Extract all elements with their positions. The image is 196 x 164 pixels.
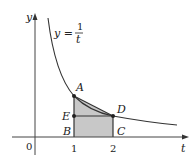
point-label-C: C: [117, 125, 126, 138]
tick-label-1: 1: [71, 143, 77, 154]
point-label-D: D: [116, 103, 126, 116]
diagram-canvas: y t 0 1 2 A E B D C y = 1 t: [0, 0, 196, 164]
point-E: [72, 114, 76, 118]
equation-lhs: y =: [53, 27, 73, 40]
equation-denominator: t: [76, 33, 81, 46]
equation-numerator: 1: [77, 21, 83, 32]
point-label-E: E: [61, 110, 70, 123]
equation-label: y = 1 t: [53, 21, 83, 46]
point-A: [72, 94, 76, 98]
y-axis-label: y: [25, 11, 33, 24]
t-axis-label: t: [181, 142, 186, 155]
y-axis-arrow-icon: [33, 13, 38, 20]
point-label-B: B: [62, 125, 71, 138]
point-label-A: A: [75, 81, 84, 94]
t-axis-arrow-icon: [182, 135, 189, 140]
tick-label-2: 2: [110, 143, 116, 154]
point-D: [111, 114, 115, 118]
origin-label: 0: [26, 141, 32, 152]
